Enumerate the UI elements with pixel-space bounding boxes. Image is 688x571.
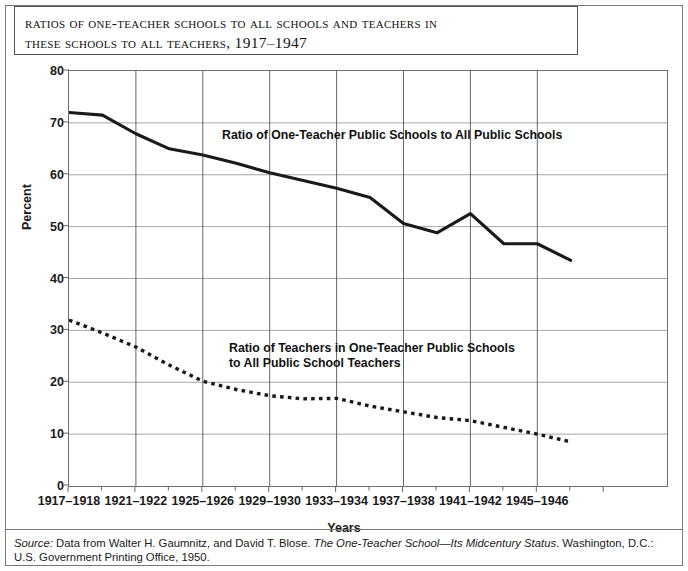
x-tick-label: 1925–1926 (172, 494, 235, 508)
figure-container: Ratios of One-Teacher Schools to All Sch… (0, 0, 688, 571)
source-divider (5, 529, 683, 530)
x-axis-minor-ticks (0, 487, 688, 495)
series-label-solid: Ratio of One-Teacher Public Schools to A… (222, 128, 562, 143)
series-label-dotted-line1: Ratio of Teachers in One-Teacher Public … (229, 341, 515, 356)
x-tick-label: 1945–1946 (506, 494, 569, 508)
series-label-dotted: Ratio of Teachers in One-Teacher Public … (229, 341, 515, 371)
y-axis-tick-labels: 01020304050607080 (30, 60, 64, 500)
x-axis-title: Years (0, 521, 688, 535)
source-note: Source: Data from Walter H. Gaumnitz, an… (14, 536, 674, 564)
x-tick-label: 1941–1942 (439, 494, 502, 508)
x-tick-label: 1921–1922 (105, 494, 168, 508)
series-line-dotted (69, 320, 571, 442)
page-title-line2: These Schools to All Teachers, 1917–1947 (25, 33, 577, 53)
series-label-dotted-line2: to All Public School Teachers (229, 356, 515, 371)
source-text-before: Data from Walter H. Gaumnitz, and David … (53, 537, 314, 549)
x-tick-label: 1933–1934 (305, 494, 368, 508)
y-axis-tick-marks (62, 69, 72, 489)
x-tick-label: 1929–1930 (238, 494, 301, 508)
source-label: Source: (14, 537, 53, 549)
x-axis-tick-labels: 1917–19181921–19221925–19261929–19301933… (0, 494, 688, 512)
x-tick-label: 1937–1938 (372, 494, 435, 508)
page-title-line1: Ratios of One-Teacher Schools to All Sch… (25, 13, 577, 33)
x-tick-label: 1917–1918 (38, 494, 101, 508)
source-italic-title: The One-Teacher School—Its Midcentury St… (314, 537, 557, 549)
figure-title-box: Ratios of One-Teacher Schools to All Sch… (14, 6, 578, 55)
